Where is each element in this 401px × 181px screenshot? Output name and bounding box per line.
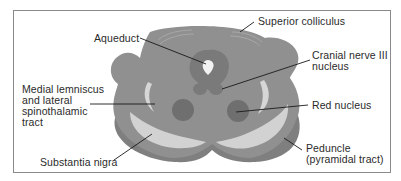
leader-superior-colliculus xyxy=(240,22,254,32)
midbrain-body xyxy=(111,26,300,162)
label-red-nucleus: Red nucleus xyxy=(312,100,371,111)
label-cranial-nerve-iii-nucleus: Cranial nerve III nucleus xyxy=(312,50,388,72)
red-nucleus-left xyxy=(172,99,194,121)
label-peduncle: Peduncle (pyramidal tract) xyxy=(306,143,384,165)
label-superior-colliculus: Superior colliculus xyxy=(258,16,345,27)
cranial-nerve-iii-nucleus-left xyxy=(193,83,207,95)
label-substantia-nigra: Substantia nigra xyxy=(40,157,117,168)
cranial-nerve-iii-nucleus-right xyxy=(209,83,223,95)
label-aqueduct: Aqueduct xyxy=(94,33,139,44)
label-medial-lemniscus: Medial lemniscus and lateral spinothalam… xyxy=(22,84,104,128)
